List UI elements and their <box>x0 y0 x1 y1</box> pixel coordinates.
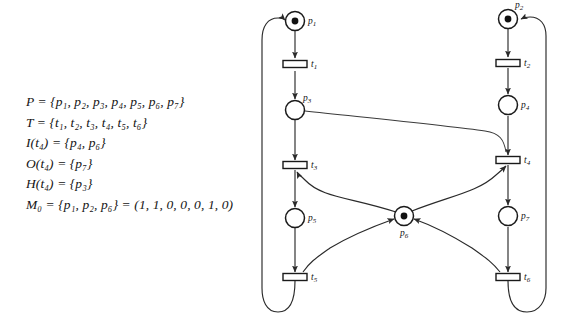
arc-t6-p6 <box>414 219 500 272</box>
transition-label-t5: t5 <box>311 272 318 284</box>
place-p4: p4 <box>499 96 530 115</box>
place-p2: p2 <box>499 0 524 29</box>
place-label-p7: p7 <box>520 211 530 223</box>
arc-p6-t4 <box>412 166 506 211</box>
transition-t2: t2 <box>496 58 531 70</box>
place-label-p3: p3 <box>302 93 312 105</box>
nodes-layer: p1p2p3p4p5p6p7t1t2t3t4t5t6 <box>283 0 531 284</box>
transition-t3: t3 <box>283 160 318 172</box>
transition-t4: t4 <box>496 155 531 167</box>
token-dot-p1 <box>292 18 299 25</box>
arc-p3-t4-inhibitor <box>305 111 506 152</box>
transition-bar-t1 <box>283 61 307 68</box>
transition-label-t1: t1 <box>311 59 317 71</box>
arc-t5-p6 <box>303 219 394 272</box>
place-p3: p3 <box>286 93 312 120</box>
place-p7: p7 <box>499 207 530 226</box>
transition-bar-t4 <box>496 157 520 164</box>
transition-t6: t6 <box>496 272 531 284</box>
place-label-p4: p4 <box>520 100 530 112</box>
place-p6: p6 <box>395 207 414 241</box>
transition-label-t4: t4 <box>524 155 531 167</box>
arc-p6-t3 <box>297 172 396 212</box>
token-dot-p2 <box>505 16 512 23</box>
transition-bar-t5 <box>283 274 307 281</box>
place-circle-p3 <box>286 101 305 120</box>
transition-t5: t5 <box>283 272 318 284</box>
place-label-p2: p2 <box>514 0 524 12</box>
place-circle-p7 <box>499 207 518 226</box>
transition-bar-t3 <box>283 162 307 169</box>
place-label-p1: p1 <box>307 16 316 28</box>
petri-net-graph: p1p2p3p4p5p6p7t1t2t3t4t5t6 <box>0 0 562 331</box>
place-label-p5: p5 <box>307 213 317 225</box>
transition-bar-t6 <box>496 274 520 281</box>
transition-label-t6: t6 <box>524 272 531 284</box>
transition-t1: t1 <box>283 59 317 71</box>
token-dot-p6 <box>401 213 408 220</box>
transition-bar-t2 <box>496 60 520 67</box>
place-p1: p1 <box>286 12 317 31</box>
petri-net-figure: P = {p₁, p₂, p₃, p₄, p₅, p₆, p₇} T = {t₁… <box>0 0 562 331</box>
place-circle-p5 <box>286 209 305 228</box>
transition-label-t3: t3 <box>311 160 318 172</box>
place-p5: p5 <box>286 209 317 228</box>
place-circle-p4 <box>499 96 518 115</box>
transition-label-t2: t2 <box>524 58 531 70</box>
place-label-p6: p6 <box>399 228 409 240</box>
